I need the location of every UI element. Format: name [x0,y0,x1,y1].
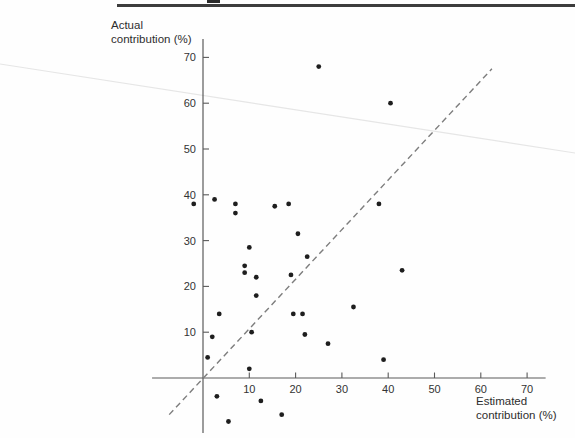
scanned-page: 10203040506070 10203040506070 Actual con… [0,0,575,438]
data-point [217,311,222,316]
y-tick-label: 50 [184,143,196,155]
data-point [351,305,356,310]
y-tick-label: 60 [184,97,196,109]
scatter-chart: 10203040506070 10203040506070 [0,0,575,438]
data-point [249,330,254,335]
y-tick-label: 20 [184,280,196,292]
data-point [254,293,259,298]
data-point [300,311,305,316]
x-axis-title-line2: contribution (%) [476,409,557,423]
data-point [205,355,210,360]
data-point [381,357,386,362]
x-axis-title: Estimated contribution (%) [476,395,557,422]
y-axis-title-line1: Actual [111,19,192,33]
x-tick-label: 30 [336,383,348,395]
x-tick-label: 60 [475,383,487,395]
data-point [258,399,263,404]
data-point [191,202,196,207]
identity-line-segment [169,69,492,415]
data-point [254,275,259,280]
scatter-points [191,64,404,424]
x-tick-label: 50 [428,383,440,395]
x-axis-tick-labels: 10203040506070 [243,383,533,395]
y-axis-title: Actual contribution (%) [111,19,192,46]
data-point [212,197,217,202]
x-axis-title-line1: Estimated [476,395,557,409]
scan-artifact-line [0,64,575,153]
data-point [296,231,301,236]
y-tick-label: 30 [184,235,196,247]
data-point [286,202,291,207]
data-point [305,254,310,259]
data-point [242,270,247,275]
x-tick-label: 40 [382,383,394,395]
data-point [302,332,307,337]
data-point [388,101,393,106]
data-point [210,334,215,339]
identity-dashed-line [169,69,492,415]
data-point [289,273,294,278]
data-point [279,412,284,417]
data-point [272,204,277,209]
data-point [242,263,247,268]
data-point [377,202,382,207]
axes [152,39,546,433]
y-tick-label: 10 [184,326,196,338]
data-point [291,311,296,316]
x-tick-label: 10 [243,383,255,395]
data-point [226,419,231,424]
data-point [233,202,238,207]
data-point [233,211,238,216]
data-point [316,64,321,69]
data-point [326,341,331,346]
y-axis-title-line2: contribution (%) [111,33,192,47]
data-point [214,394,219,399]
y-tick-label: 40 [184,189,196,201]
data-point [247,245,252,250]
data-point [400,268,405,273]
x-tick-label: 70 [521,383,533,395]
y-tick-label: 70 [184,51,196,63]
data-point [247,366,252,371]
x-tick-label: 20 [289,383,301,395]
